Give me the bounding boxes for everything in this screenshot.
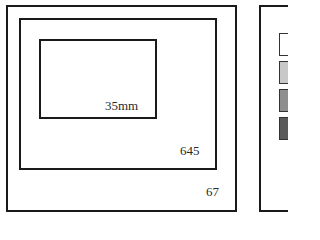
frame-35mm-format bbox=[39, 39, 157, 119]
label-35mm: 35mm bbox=[105, 99, 138, 112]
label-645: 645 bbox=[180, 144, 200, 157]
swatch-white bbox=[279, 33, 288, 56]
swatch-light-gray bbox=[279, 61, 288, 84]
label-67: 67 bbox=[206, 185, 219, 198]
swatch-medium-gray bbox=[279, 89, 288, 112]
swatch-dark-gray bbox=[279, 117, 288, 140]
